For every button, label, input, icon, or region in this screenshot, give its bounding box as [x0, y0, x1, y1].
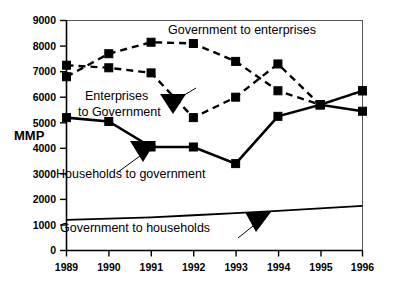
series-path	[67, 206, 363, 220]
x-tick-label-1991: 1991	[140, 261, 164, 273]
data-point-marker	[147, 38, 155, 46]
x-tick-label-1993: 1993	[224, 261, 248, 273]
data-point-marker	[274, 60, 282, 68]
data-point-marker	[359, 107, 367, 115]
data-point-marker	[63, 114, 71, 122]
y-tick-label-8000: 8000	[33, 40, 57, 52]
chart-figure: 9000 8000 7000 6000 5000 4000 3000 2000 …	[0, 0, 397, 292]
government-to-households-pointer	[238, 212, 271, 238]
y-axis-title: MMP	[14, 128, 45, 143]
y-tick-label-4000: 4000	[33, 142, 57, 154]
series-government-to-households	[67, 206, 363, 220]
annotation-households-to-government: Households to government	[56, 167, 206, 181]
data-point-marker	[232, 57, 240, 65]
x-tick-label-1996: 1996	[351, 261, 375, 273]
data-point-marker	[189, 143, 197, 151]
y-tick-label-5000: 5000	[33, 117, 57, 129]
y-tick-label-2000: 2000	[33, 193, 57, 205]
data-point-marker	[274, 87, 282, 95]
data-point-marker	[63, 61, 71, 69]
x-tick-label-1990: 1990	[97, 261, 121, 273]
annotation-government-to-enterprises: Government to enterprises	[168, 23, 316, 37]
x-axis-ticks	[67, 251, 363, 257]
x-axis: 1989 1990 1991 1992 1993 1994 1995 1996	[55, 251, 375, 274]
y-tick-label-0: 0	[50, 244, 56, 256]
data-point-marker	[189, 114, 197, 122]
y-tick-label-3000: 3000	[33, 168, 57, 180]
annotation-government-to-households: Government to households	[60, 221, 210, 235]
data-point-marker	[63, 73, 71, 81]
data-point-marker	[105, 50, 113, 58]
data-point-marker	[189, 40, 197, 48]
data-point-marker	[232, 160, 240, 168]
data-point-marker	[316, 101, 324, 109]
x-tick-label-1992: 1992	[182, 261, 206, 273]
x-tick-label-1995: 1995	[309, 261, 333, 273]
y-axis-ticks	[60, 21, 66, 251]
data-point-marker	[274, 112, 282, 120]
y-tick-label-7000: 7000	[33, 65, 57, 77]
y-tick-label-9000: 9000	[33, 14, 57, 26]
annotation-enterprises-to-government-line1: Enterprises	[85, 89, 148, 103]
line-chart-svg: 9000 8000 7000 6000 5000 4000 3000 2000 …	[0, 0, 397, 292]
y-tick-label-6000: 6000	[33, 91, 57, 103]
data-point-marker	[147, 69, 155, 77]
enterprises-to-government-pointer	[160, 88, 196, 114]
x-tick-label-1989: 1989	[55, 261, 79, 273]
y-tick-label-1000: 1000	[33, 219, 57, 231]
data-point-marker	[232, 93, 240, 101]
series-layer	[63, 38, 367, 220]
data-point-marker	[105, 64, 113, 72]
x-tick-label-1994: 1994	[267, 261, 291, 273]
annotation-enterprises-to-government-line2: to Government	[78, 105, 161, 119]
data-point-marker	[359, 87, 367, 95]
